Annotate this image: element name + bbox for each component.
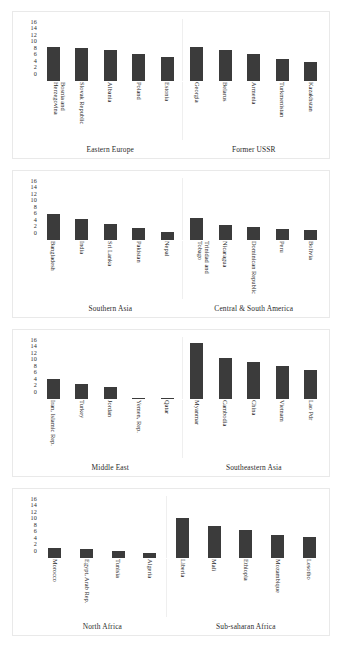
group-caption: Eastern Europe xyxy=(39,145,182,154)
category-label-slot: Algeria xyxy=(134,559,166,617)
bar-slot xyxy=(297,337,326,399)
category-label-slot: Nicaragua xyxy=(211,241,240,299)
bar[interactable] xyxy=(247,227,260,240)
bar[interactable] xyxy=(208,526,221,558)
bar[interactable] xyxy=(304,62,317,81)
category-label: Georgia xyxy=(193,82,200,102)
category-labels: Iran, Islamic Rep.TurkeyJordanYemen, Rep… xyxy=(39,400,325,458)
category-label: Sri Lanka xyxy=(107,241,114,266)
bar[interactable] xyxy=(176,518,189,558)
category-label: Cambodia xyxy=(222,400,229,426)
category-label-slot: Bangladesh xyxy=(39,241,68,299)
bar-groups xyxy=(39,19,325,81)
bar[interactable] xyxy=(276,59,289,81)
category-label-slot: Turkmenistan xyxy=(268,82,297,140)
y-axis-tick: 0 xyxy=(34,71,37,77)
category-labels: Bosnia andHerzegovinaSlovak RepublicAlba… xyxy=(39,82,325,140)
bar-slot xyxy=(125,337,154,399)
bar-group xyxy=(166,496,325,558)
bar[interactable] xyxy=(47,47,60,81)
bar[interactable] xyxy=(276,366,289,399)
bar[interactable] xyxy=(303,537,316,558)
category-label-slot: Slovak Republic xyxy=(68,82,97,140)
category-label-slot: Morocco xyxy=(39,559,71,617)
category-label-slot: Peru xyxy=(268,241,297,299)
bar[interactable] xyxy=(239,530,252,558)
bar[interactable] xyxy=(304,230,317,240)
bar[interactable] xyxy=(132,398,145,399)
bar-group xyxy=(182,19,326,81)
bar-slot xyxy=(211,19,240,81)
multi-panel-bar-chart: 1614121086420Bosnia andHerzegovinaSlovak… xyxy=(0,0,342,650)
bar[interactable] xyxy=(104,387,117,399)
category-label-slot: Mali xyxy=(198,559,230,617)
bar[interactable] xyxy=(161,398,174,399)
bar[interactable] xyxy=(219,225,232,240)
group-caption: Southern Asia xyxy=(39,304,182,313)
group-captions: Middle EastSoutheastern Asia xyxy=(39,463,325,472)
bar[interactable] xyxy=(190,47,203,81)
category-labels: BangladeshIndiaSri LankaPakistanNepalTri… xyxy=(39,241,325,299)
bar-slot xyxy=(211,178,240,240)
group-captions: Eastern EuropeFormer USSR xyxy=(39,145,325,154)
bar[interactable] xyxy=(304,370,317,399)
bar[interactable] xyxy=(104,50,117,81)
bar[interactable] xyxy=(161,232,174,240)
bar-slot xyxy=(153,178,182,240)
bar[interactable] xyxy=(219,50,232,81)
bar[interactable] xyxy=(271,535,284,558)
bar[interactable] xyxy=(190,343,203,399)
bar[interactable] xyxy=(48,548,61,558)
chart-panel: 1614121086420MoroccoEgypt, Arab Rep.Tuni… xyxy=(12,488,330,636)
bar[interactable] xyxy=(132,228,145,240)
category-label-slot: Pakistan xyxy=(125,241,154,299)
category-label: Bosnia andHerzegovina xyxy=(53,82,67,115)
category-label: Kazakhstan xyxy=(307,82,314,112)
category-label: Albania xyxy=(107,82,114,102)
y-axis: 1614121086420 xyxy=(15,19,37,77)
chart-panel: 1614121086420BangladeshIndiaSri LankaPak… xyxy=(12,170,330,318)
bar[interactable] xyxy=(219,358,232,399)
bar[interactable] xyxy=(47,379,60,399)
category-label: Liberia xyxy=(179,559,186,577)
bar-slot xyxy=(68,178,97,240)
bar[interactable] xyxy=(75,384,88,400)
category-label: Lesotho xyxy=(306,559,313,580)
category-label-slot: Ethiopia xyxy=(230,559,262,617)
bar[interactable] xyxy=(75,48,88,81)
category-label-slot: Vietnam xyxy=(268,400,297,458)
category-label: Trinidad andTobago xyxy=(197,241,211,274)
bar[interactable] xyxy=(190,218,203,240)
category-label-slot: Trinidad andTobago xyxy=(183,241,212,299)
bar-slot xyxy=(153,19,182,81)
bar-group xyxy=(182,178,326,240)
category-label-group: Bosnia andHerzegovinaSlovak RepublicAlba… xyxy=(39,82,182,140)
bar[interactable] xyxy=(80,549,93,558)
bar[interactable] xyxy=(47,214,60,240)
category-label-slot: Bosnia andHerzegovina xyxy=(39,82,68,140)
plot-area xyxy=(39,496,325,558)
bar[interactable] xyxy=(247,54,260,81)
y-axis-tick: 0 xyxy=(34,389,37,395)
category-label: Bangladesh xyxy=(50,241,57,271)
category-label-slot: Tunisia xyxy=(102,559,134,617)
bar[interactable] xyxy=(104,224,117,240)
bar[interactable] xyxy=(132,54,145,81)
category-label-slot: Lesotho xyxy=(293,559,325,617)
category-label-slot: Yemen, Rep. xyxy=(125,400,154,458)
category-label: Lao Pdr xyxy=(307,400,314,420)
bar-slot xyxy=(293,496,325,558)
bar[interactable] xyxy=(75,219,88,240)
category-label: Jordan xyxy=(107,400,114,417)
bar[interactable] xyxy=(112,551,125,558)
bar-groups xyxy=(39,337,325,399)
bar-slot xyxy=(125,19,154,81)
bar[interactable] xyxy=(247,362,260,399)
y-axis-tick: 0 xyxy=(34,548,37,554)
bar[interactable] xyxy=(143,553,156,558)
group-caption: North Africa xyxy=(39,622,166,631)
bar[interactable] xyxy=(161,57,174,81)
bar[interactable] xyxy=(276,229,289,240)
plot-area xyxy=(39,178,325,240)
group-caption: Middle East xyxy=(39,463,182,472)
